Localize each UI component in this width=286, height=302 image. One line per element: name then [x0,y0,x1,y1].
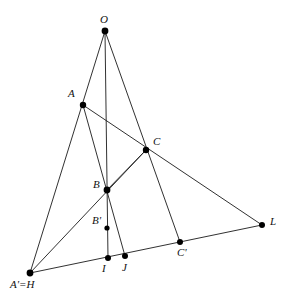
point-C [143,147,149,153]
point-label-Bp: B' [92,215,101,226]
geometry-segment-O-to-I [105,31,108,258]
point-label-B: B [93,179,100,190]
point-label-A: A [68,88,75,99]
point-label-J: J [122,262,127,273]
geometry-segment-O-to-Cprime [105,31,180,242]
point-label-C: C [153,136,160,147]
geometry-segment-A-to-L [83,105,262,225]
point-Bp [104,225,109,230]
point-Cp [177,239,183,245]
point-O [102,28,109,35]
point-B [104,187,111,194]
geometry-segment-O-to-Aprime-H [30,31,105,273]
geometry-figure: OACBB'LC'IJA'=H [0,0,286,302]
point-label-L: L [270,216,276,227]
point-L [259,222,265,228]
point-I [105,255,111,261]
point-label-Cp: C' [177,247,187,258]
point-J [122,253,128,259]
geometry-segment-A-to-J [83,105,125,256]
point-label-ApH: A'=H [10,279,34,290]
point-label-I: I [102,263,106,274]
point-A [80,102,86,108]
geometry-segment-Aprime-H-to-L [30,225,262,273]
point-label-O: O [100,14,108,25]
geometry-canvas [0,0,286,302]
point-ApH [27,270,34,277]
geometry-segment-B-to-C [107,150,146,190]
